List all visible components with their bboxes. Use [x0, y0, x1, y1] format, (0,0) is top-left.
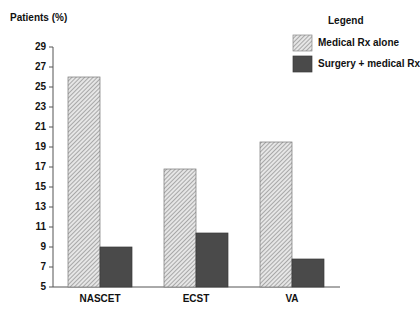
y-tick-label: 25 — [22, 81, 46, 92]
y-tick-label: 9 — [22, 241, 46, 252]
y-tick-label: 21 — [22, 121, 46, 132]
y-tick-label: 19 — [22, 141, 46, 152]
bar-va-medical — [260, 142, 292, 287]
y-tick-label: 17 — [22, 161, 46, 172]
y-tick-label: 7 — [22, 261, 46, 272]
bar-ecst-surgery — [196, 233, 228, 287]
y-tick-label: 11 — [22, 221, 46, 232]
x-category-label: VA — [252, 293, 332, 304]
bar-nascet-medical — [68, 77, 100, 287]
bar-va-surgery — [292, 259, 324, 287]
y-tick-label: 5 — [22, 281, 46, 292]
bar-ecst-medical — [164, 169, 196, 287]
bar-nascet-surgery — [100, 247, 132, 287]
y-tick-label: 23 — [22, 101, 46, 112]
x-category-label: ECST — [156, 293, 236, 304]
legend — [293, 35, 312, 72]
legend-label: Surgery + medical Rx — [318, 58, 420, 69]
y-tick-label: 29 — [22, 41, 46, 52]
legend-swatch-surgery — [293, 56, 312, 72]
y-tick-label: 13 — [22, 201, 46, 212]
bars — [68, 77, 324, 287]
legend-swatch-medical — [293, 35, 312, 51]
y-tick-label: 27 — [22, 61, 46, 72]
legend-label: Medical Rx alone — [318, 37, 399, 48]
x-category-label: NASCET — [60, 293, 140, 304]
y-tick-label: 15 — [22, 181, 46, 192]
